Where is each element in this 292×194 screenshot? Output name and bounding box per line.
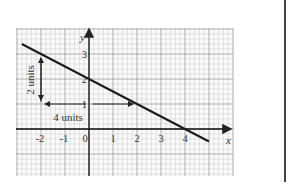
x-tick-label: 4 (182, 133, 188, 144)
page-margin-rule (284, 0, 286, 182)
x-axis-label: x (225, 134, 231, 146)
y-tick-label: 3 (82, 49, 87, 60)
x-tick-label: -1 (60, 133, 69, 144)
coordinate-plot: 2 units 4 units x y -2 -1 0 1 2 3 4 1 2 … (0, 0, 292, 194)
x-tick-label: 0 (82, 133, 87, 144)
x-tick-label: -2 (36, 133, 45, 144)
y-axis-label: y (79, 31, 85, 43)
x-tick-label: 3 (158, 133, 163, 144)
y-tick-label: 1 (82, 99, 87, 110)
y-tick-labels: 1 2 3 (82, 49, 87, 110)
x-tick-label: 1 (110, 133, 115, 144)
graph-figure: 2 units 4 units x y -2 -1 0 1 2 3 4 1 2 … (0, 0, 292, 194)
run-label: 4 units (53, 111, 83, 123)
x-tick-label: 2 (134, 133, 139, 144)
rise-label: 2 units (24, 65, 36, 95)
y-tick-label: 2 (82, 74, 87, 85)
